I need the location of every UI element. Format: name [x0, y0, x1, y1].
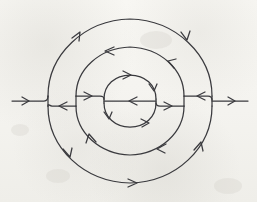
smudge-left: [11, 124, 29, 136]
outer-ring-upper-arc: [48, 19, 212, 96]
smudge-top: [140, 31, 172, 49]
outer-ring-lower-arc: [48, 106, 212, 183]
middle-ring-upper-arc: [76, 47, 184, 96]
left-entry-line: [12, 96, 48, 101]
smudge-bottom-left: [46, 169, 70, 183]
arrowhead-outer-lower-right: [194, 142, 203, 151]
paper-smudges: [11, 31, 242, 194]
diagram-canvas: Concentric arc flow diagram Three nested…: [0, 0, 257, 202]
middle-ring-lower-arc: [76, 106, 184, 155]
smudge-bottom-right: [214, 178, 242, 194]
arrowheads: [22, 31, 235, 187]
arrowhead-outer-upper-right: [181, 31, 190, 40]
arrowhead-middle-upper-right: [168, 59, 176, 68]
inner-ring-upper-arc: [104, 75, 156, 99]
arc-flow-diagram: [0, 0, 257, 202]
